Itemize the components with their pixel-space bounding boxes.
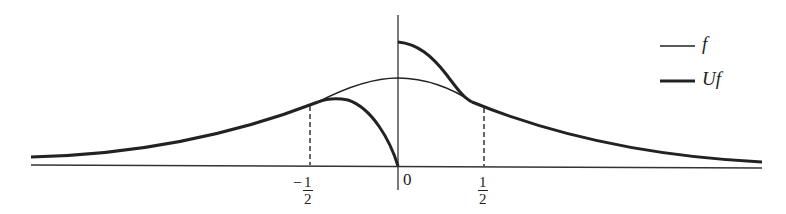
curve-uf-left-tail [31, 102, 318, 157]
tick-label-pos-half: 12 [478, 172, 488, 207]
tick-label-neg-half: −12 [293, 172, 313, 207]
legend-label-f: f [702, 33, 707, 55]
legend-label-uf: Uf [702, 68, 721, 90]
tick-label-zero: 0 [403, 170, 412, 190]
diagram-canvas [0, 0, 786, 214]
curve-uf-right-hump [398, 42, 472, 102]
curve-uf-left-hump [318, 99, 398, 166]
curve-uf-right-tail [472, 102, 762, 162]
